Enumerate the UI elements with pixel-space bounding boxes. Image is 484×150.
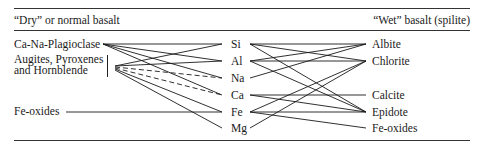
link-plag-al bbox=[103, 44, 222, 61]
link-mg-chlorite bbox=[250, 61, 366, 128]
link-si-epidote bbox=[250, 44, 366, 112]
link-aug-al bbox=[115, 61, 222, 66]
link-aug-fe bbox=[115, 69, 222, 112]
link-aug-mg bbox=[115, 70, 222, 128]
connection-lines bbox=[0, 0, 484, 150]
bottom-rule bbox=[14, 140, 470, 141]
link-plag-ca bbox=[103, 44, 222, 95]
link-fe-feoxides bbox=[250, 112, 366, 128]
link-ca-epidote bbox=[250, 95, 366, 112]
